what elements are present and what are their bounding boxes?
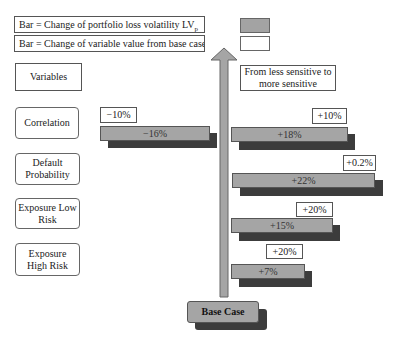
legend-label-subscript: p — [195, 25, 199, 33]
variable-change-up-default-probability: +0.2% — [343, 155, 376, 171]
lv-bar-up-exposure-high-risk: +7% — [231, 264, 305, 279]
variable-label-line2: Probability — [25, 169, 69, 181]
lv-bar-up-correlation: +18% — [231, 127, 348, 142]
variable-change-up-exposure-low-risk: +20% — [296, 202, 333, 217]
variable-exposure-high-risk: Exposure High Risk — [15, 243, 80, 276]
sensitivity-note: From less sensitive to more sensitive — [240, 65, 336, 91]
lv-bar-down-correlation: −16% — [100, 126, 210, 141]
variable-label: Correlation — [24, 117, 70, 129]
variable-label-line1: Default — [33, 157, 63, 169]
lv-bar-up-exposure-low-risk: +15% — [231, 218, 333, 233]
legend-swatch-gray — [240, 18, 270, 33]
sensitivity-note-line1: From less sensitive to — [245, 66, 332, 78]
legend-label: Bar = Change of portfolio loss volatilit… — [19, 19, 195, 30]
legend-item-variable-change: Bar = Change of variable value from base… — [14, 35, 205, 52]
lv-bar-up-default-probability: +22% — [232, 173, 375, 188]
variables-header: Variables — [15, 63, 82, 91]
variable-change-up-correlation: +10% — [312, 108, 347, 124]
variable-label-line2: High Risk — [27, 260, 68, 272]
legend-label: Bar = Change of variable value from base… — [19, 38, 205, 49]
legend-swatch-white — [240, 36, 270, 51]
variable-exposure-low-risk: Exposure Low Risk — [15, 198, 80, 229]
sensitivity-note-line2: more sensitive — [259, 78, 317, 90]
variable-label-line1: Exposure — [29, 248, 67, 260]
variable-change-up-exposure-high-risk: +20% — [266, 244, 303, 259]
variable-change-down-correlation: −10% — [100, 107, 137, 123]
variable-label-line2: Risk — [38, 214, 56, 226]
variables-header-label: Variables — [30, 71, 67, 83]
variable-label-line1: Exposure Low — [18, 202, 77, 214]
variable-default-probability: Default Probability — [15, 153, 80, 185]
variable-correlation: Correlation — [15, 107, 79, 139]
base-case-box: Base Case — [187, 301, 259, 323]
legend-item-lv-change: Bar = Change of portfolio loss volatilit… — [14, 16, 205, 33]
